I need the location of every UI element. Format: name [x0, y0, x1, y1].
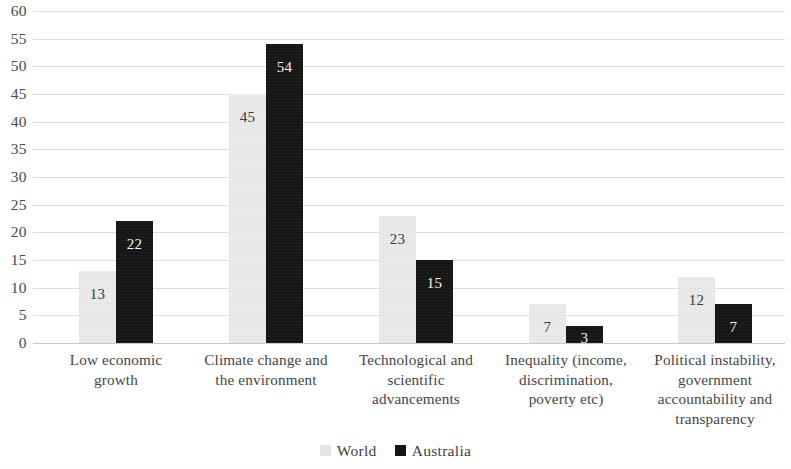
bar-value-label: 13: [90, 287, 106, 302]
chart-legend: WorldAustralia: [0, 443, 791, 459]
bar-australia-0: 22: [116, 221, 153, 343]
bar-australia-1: 54: [266, 44, 303, 343]
gridline: [33, 177, 785, 178]
x-axis-label-line: Technological and: [341, 350, 491, 370]
x-axis-category-labels: Low economicgrowthClimate change andthe …: [33, 350, 785, 435]
legend-item-world[interactable]: World: [320, 443, 377, 459]
bar-australia-2: 15: [416, 260, 453, 343]
bar-world-1: 45: [229, 94, 266, 343]
bar-world-0: 13: [79, 271, 116, 343]
legend-label: World: [337, 443, 377, 459]
bar-value-label: 15: [427, 276, 443, 291]
x-axis-label-0: Low economicgrowth: [41, 350, 191, 389]
bar-value-label: 54: [277, 60, 293, 75]
y-axis: 605550454035302520151050: [0, 0, 33, 469]
y-axis-tick-label: 20: [0, 224, 27, 240]
x-axis-label-line: growth: [41, 370, 191, 390]
x-axis-label-4: Political instability,governmentaccounta…: [640, 350, 790, 428]
bar-australia-3: 3: [566, 326, 603, 343]
gridline: [33, 122, 785, 123]
x-axis-label-line: Climate change and: [191, 350, 341, 370]
bar-value-label: 7: [730, 320, 738, 335]
y-axis-tick-label: 60: [0, 3, 27, 19]
bar-world-4: 12: [678, 277, 715, 343]
x-axis-label-line: transparency: [640, 409, 790, 429]
y-axis-tick-label: 50: [0, 58, 27, 74]
bar-value-label: 3: [581, 331, 589, 346]
legend-swatch-icon: [395, 445, 406, 456]
gridline: [33, 39, 785, 40]
x-axis-label-line: Low economic: [41, 350, 191, 370]
y-axis-tick-label: 35: [0, 141, 27, 157]
y-axis-tick-label: 15: [0, 252, 27, 268]
bar-world-2: 23: [379, 216, 416, 343]
gridline: [33, 149, 785, 150]
gridline: [33, 94, 785, 95]
x-axis-label-1: Climate change andthe environment: [191, 350, 341, 389]
y-axis-tick-label: 30: [0, 169, 27, 185]
bar-value-label: 45: [240, 110, 256, 125]
gridline: [33, 343, 785, 344]
gridline: [33, 66, 785, 67]
x-axis-label-line: scientific: [341, 370, 491, 390]
y-axis-tick-label: 40: [0, 114, 27, 130]
y-axis-tick-label: 45: [0, 86, 27, 102]
bar-value-label: 12: [689, 293, 705, 308]
y-axis-tick-label: 5: [0, 307, 27, 323]
bar-value-label: 23: [390, 232, 406, 247]
bar-chart: 605550454035302520151050 132245542315731…: [0, 0, 791, 469]
legend-swatch-icon: [320, 445, 331, 456]
gridline: [33, 205, 785, 206]
bar-australia-4: 7: [715, 304, 752, 343]
x-axis-label-line: Inequality (income,: [491, 350, 641, 370]
plot-area: 13224554231573127: [33, 11, 785, 343]
legend-item-australia[interactable]: Australia: [395, 443, 472, 459]
x-axis-label-line: Political instability,: [640, 350, 790, 370]
x-axis-label-2: Technological andscientificadvancements: [341, 350, 491, 409]
x-axis-label-line: poverty etc): [491, 389, 641, 409]
gridline: [33, 11, 785, 12]
y-axis-tick-label: 10: [0, 280, 27, 296]
x-axis-label-line: discrimination,: [491, 370, 641, 390]
bar-world-3: 7: [529, 304, 566, 343]
x-axis-label-line: accountability and: [640, 389, 790, 409]
x-axis-label-line: government: [640, 370, 790, 390]
y-axis-tick-label: 25: [0, 197, 27, 213]
x-axis-label-line: advancements: [341, 389, 491, 409]
y-axis-tick-label: 0: [0, 335, 27, 351]
x-axis-label-3: Inequality (income,discrimination,povert…: [491, 350, 641, 409]
bar-value-label: 22: [127, 237, 143, 252]
bar-value-label: 7: [544, 320, 552, 335]
x-axis-label-line: the environment: [191, 370, 341, 390]
y-axis-tick-label: 55: [0, 31, 27, 47]
legend-label: Australia: [412, 443, 472, 459]
